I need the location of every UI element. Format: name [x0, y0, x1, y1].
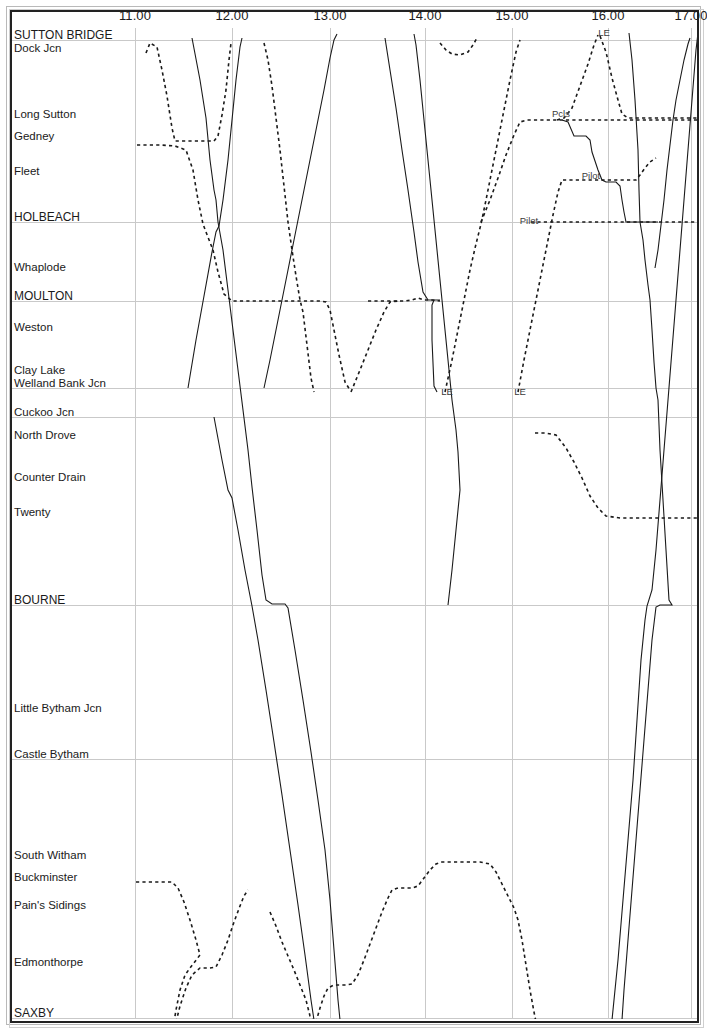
- train-path-t13: [445, 40, 520, 392]
- graph-annotation-pilot-2: Pilot: [582, 170, 600, 181]
- train-path-t22: [535, 433, 697, 518]
- train-path-t05: [137, 145, 350, 390]
- time-tick-14-00: 14.00: [408, 8, 441, 23]
- train-graph-page: 11.0012.0013.0014.0015.0016.0017.00 SUTT…: [0, 0, 707, 1031]
- graph-annotation-pcls-1: Pcls: [552, 108, 570, 119]
- time-tick-15-00: 15.00: [495, 8, 528, 23]
- graph-annotation-le-4: LE: [441, 386, 453, 397]
- time-axis: 11.0012.0013.0014.0015.0016.0017.00: [12, 8, 697, 28]
- train-path-t07: [264, 34, 337, 388]
- train-path-t11: [351, 301, 398, 392]
- train-path-t21: [655, 38, 690, 268]
- train-path-t04: [214, 417, 314, 1019]
- time-tick-17-00: 17.00: [674, 8, 707, 23]
- time-tick-16-00: 16.00: [591, 8, 624, 23]
- time-tick-11-00: 11.00: [119, 8, 151, 23]
- train-path-t16: [600, 36, 697, 118]
- train-path-t01: [146, 43, 231, 141]
- train-path-t03: [192, 38, 340, 1019]
- time-tick-13-00: 13.00: [313, 8, 346, 23]
- train-path-group: [136, 33, 697, 1019]
- train-path-t19: [612, 33, 697, 1019]
- graph-annotation-le-0: LE: [598, 27, 610, 38]
- train-path-t08: [385, 38, 440, 392]
- graph-annotation-pilot-3: Pilot: [520, 215, 538, 226]
- train-path-t20: [622, 33, 672, 1019]
- time-tick-12-00: 12.00: [215, 8, 248, 23]
- vertical-gridlines: [136, 28, 692, 1019]
- train-path-t27: [414, 34, 460, 605]
- graph-annotation-le-5: LE: [514, 386, 526, 397]
- train-path-t25: [270, 912, 314, 1019]
- train-path-t06: [264, 43, 314, 392]
- train-path-t23: [136, 882, 200, 1019]
- train-path-t14: [518, 158, 656, 392]
- horizontal-gridlines: [12, 41, 697, 1019]
- train-path-t24: [176, 890, 248, 1019]
